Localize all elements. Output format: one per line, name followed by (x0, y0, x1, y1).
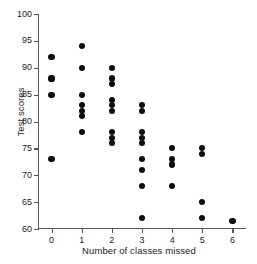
data-point (79, 65, 85, 71)
y-axis-tick (34, 41, 39, 42)
y-axis-tick (34, 14, 39, 15)
scatter-plot-figure: Test scores Number of classes missed 012… (0, 0, 257, 264)
x-axis-tick (232, 228, 233, 233)
y-axis-tick-label: 80 (6, 117, 32, 126)
y-axis-tick (34, 229, 39, 230)
x-axis-label: Number of classes missed (30, 245, 248, 256)
y-axis-tick-label: 65 (6, 198, 32, 207)
y-axis-tick-label: 85 (6, 90, 32, 99)
x-axis-tick-label: 4 (163, 236, 181, 245)
x-axis-tick (112, 228, 113, 233)
y-axis-tick (34, 68, 39, 69)
data-point (48, 75, 54, 81)
x-axis-tick-label: 0 (43, 236, 61, 245)
x-axis-tick-label: 3 (133, 236, 151, 245)
y-axis-tick (34, 175, 39, 176)
data-point (109, 81, 115, 87)
x-axis-tick-label: 5 (193, 236, 211, 245)
data-point (139, 108, 145, 114)
x-axis-tick-label: 2 (103, 236, 121, 245)
x-axis-tick (82, 228, 83, 233)
y-axis-tick (34, 122, 39, 123)
data-point (229, 218, 235, 224)
data-point (48, 156, 54, 162)
data-point (139, 215, 145, 221)
data-point (169, 145, 175, 151)
data-point (109, 140, 115, 146)
y-axis-tick-label: 70 (6, 171, 32, 180)
x-axis-tick (52, 228, 53, 233)
y-axis-tick (34, 95, 39, 96)
data-point (199, 215, 205, 221)
x-axis-tick-label: 6 (223, 236, 241, 245)
data-point (199, 151, 205, 157)
data-point (169, 161, 175, 167)
data-point (139, 183, 145, 189)
data-point (48, 54, 54, 60)
data-point (109, 65, 115, 71)
plot-area: 0123456 (38, 14, 246, 229)
data-point (79, 113, 85, 119)
x-axis-tick (142, 228, 143, 233)
data-point (79, 92, 85, 98)
data-point (79, 43, 85, 49)
y-axis-tick (34, 148, 39, 149)
data-point (48, 92, 54, 98)
data-point (139, 167, 145, 173)
data-point (169, 183, 175, 189)
data-point (199, 199, 205, 205)
x-axis-tick (172, 228, 173, 233)
data-point (139, 156, 145, 162)
y-axis-tick-label: 90 (6, 63, 32, 72)
x-axis-tick (202, 228, 203, 233)
y-axis-tick-label: 60 (6, 225, 32, 234)
y-axis-tick (34, 202, 39, 203)
data-point (139, 140, 145, 146)
data-point (79, 129, 85, 135)
y-axis-tick-label: 75 (6, 144, 32, 153)
data-point (109, 108, 115, 114)
y-axis-tick-label: 100 (6, 10, 32, 19)
y-axis-tick-label: 95 (6, 36, 32, 45)
x-axis-tick-label: 1 (73, 236, 91, 245)
